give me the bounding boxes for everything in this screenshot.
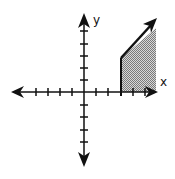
y-axis-label: y — [93, 13, 100, 27]
x-axis-label: x — [160, 75, 167, 89]
y-axis — [80, 18, 88, 162]
coordinate-plane: x y — [0, 0, 175, 179]
